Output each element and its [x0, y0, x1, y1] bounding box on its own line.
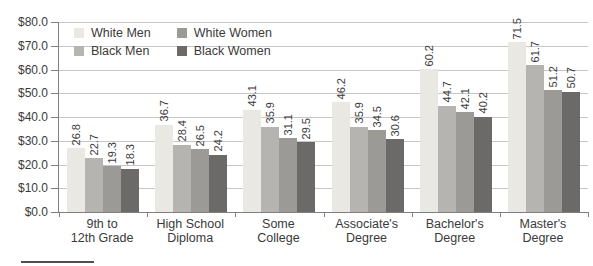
legend-swatch-icon	[74, 28, 84, 38]
bar-value-label: 40.2	[476, 92, 489, 113]
x-axis-category-label: Associate's Degree	[323, 217, 411, 245]
y-axis-tick	[51, 70, 59, 71]
bar-value-label: 26.5	[194, 125, 207, 146]
x-axis-category-label: High School Diploma	[146, 217, 234, 245]
bar: 61.7	[526, 65, 544, 212]
bar-value-label: 36.7	[158, 100, 171, 121]
bar-group: 60.244.742.140.2	[412, 22, 500, 212]
bar-value-label: 26.8	[70, 124, 83, 145]
y-axis-tick	[51, 165, 59, 166]
legend-swatch-icon	[74, 46, 84, 56]
legend-item: Black Women	[177, 44, 272, 58]
bar: 50.7	[562, 92, 580, 212]
y-axis-tick-label: $30.0	[0, 134, 48, 148]
x-axis-category-label: 9th to 12th Grade	[58, 217, 146, 245]
caption-rule	[21, 261, 94, 263]
bar: 43.1	[243, 110, 261, 212]
legend-item: Black Men	[74, 44, 151, 58]
bar-value-label: 50.7	[564, 67, 577, 88]
bar-value-label: 29.5	[300, 118, 313, 139]
bar-value-label: 44.7	[440, 81, 453, 102]
bar-value-label: 28.4	[176, 120, 189, 141]
bar: 51.2	[544, 90, 562, 212]
bar: 28.4	[173, 145, 191, 212]
y-axis-tick-label: $40.0	[0, 110, 48, 124]
chart-legend: White MenBlack MenWhite WomenBlack Women	[74, 26, 272, 58]
y-axis-tick	[51, 117, 59, 118]
bar-group: 71.561.751.250.7	[500, 22, 588, 212]
y-axis-tick-label: $70.0	[0, 39, 48, 53]
bar: 29.5	[297, 142, 315, 212]
legend-label: White Women	[194, 26, 272, 40]
bar: 40.2	[474, 117, 492, 212]
legend-swatch-icon	[177, 28, 187, 38]
bar: 30.6	[386, 139, 404, 212]
bar: 24.2	[209, 155, 227, 212]
bar-group: 46.235.934.530.6	[324, 22, 412, 212]
bar: 36.7	[155, 125, 173, 212]
y-axis-tick-label: $0.0	[0, 205, 48, 219]
bar: 26.8	[67, 148, 85, 212]
bar: 18.3	[121, 169, 139, 212]
bar: 26.5	[191, 149, 209, 212]
y-axis-tick	[51, 188, 59, 189]
bar: 22.7	[85, 158, 103, 212]
bar-value-label: 51.2	[546, 66, 559, 87]
x-axis-category-label: Bachelor's Degree	[411, 217, 499, 245]
legend-item: White Men	[74, 26, 151, 40]
y-axis-tick	[51, 212, 59, 213]
bar: 42.1	[456, 112, 474, 212]
bar: 34.5	[368, 130, 386, 212]
bar-value-label: 31.1	[282, 114, 295, 135]
x-axis-category-label: Some College	[234, 217, 322, 245]
bar: 35.9	[350, 127, 368, 212]
bar-value-label: 61.7	[528, 41, 541, 62]
bar-value-label: 42.1	[458, 88, 471, 109]
bar-value-label: 34.5	[370, 106, 383, 127]
bar-value-label: 35.9	[264, 102, 277, 123]
legend-item: White Women	[177, 26, 272, 40]
y-axis-labels: $80.0$70.0$60.0$50.0$40.0$30.0$20.0$10.0…	[0, 22, 48, 212]
bar: 46.2	[332, 102, 350, 212]
legend-label: Black Women	[194, 44, 271, 58]
y-axis-tick	[51, 93, 59, 94]
bar: 35.9	[261, 127, 279, 212]
bar-value-label: 19.3	[106, 142, 119, 163]
bar: 31.1	[279, 138, 297, 212]
bar-value-label: 60.2	[422, 45, 435, 66]
bar-value-label: 71.5	[510, 18, 523, 39]
y-axis-tick	[51, 141, 59, 142]
bar-value-label: 43.1	[246, 85, 259, 106]
bar: 60.2	[420, 69, 438, 212]
bar: 71.5	[508, 42, 526, 212]
bar-chart-figure: $80.0$70.0$60.0$50.0$40.0$30.0$20.0$10.0…	[0, 0, 593, 266]
legend-label: Black Men	[91, 44, 149, 58]
bar: 19.3	[103, 166, 121, 212]
y-axis-tick-label: $50.0	[0, 86, 48, 100]
legend-swatch-icon	[177, 46, 187, 56]
plot-area: White MenBlack MenWhite WomenBlack Women…	[58, 22, 588, 213]
x-axis-labels: 9th to 12th GradeHigh School DiplomaSome…	[58, 217, 587, 249]
x-axis-category-label: Master's Degree	[499, 217, 587, 245]
bar-value-label: 35.9	[352, 102, 365, 123]
y-axis-tick-label: $80.0	[0, 15, 48, 29]
bar: 44.7	[438, 106, 456, 212]
y-axis-tick-label: $20.0	[0, 158, 48, 172]
x-axis-tick	[588, 212, 589, 217]
y-axis-tick-label: $10.0	[0, 181, 48, 195]
y-axis-tick	[51, 22, 59, 23]
y-axis-tick	[51, 46, 59, 47]
bar-value-label: 18.3	[124, 144, 137, 165]
legend-label: White Men	[91, 26, 151, 40]
bar-value-label: 22.7	[88, 134, 101, 155]
bar-value-label: 46.2	[334, 78, 347, 99]
bar-value-label: 24.2	[212, 130, 225, 151]
y-axis-tick-label: $60.0	[0, 63, 48, 77]
bar-value-label: 30.6	[388, 115, 401, 136]
